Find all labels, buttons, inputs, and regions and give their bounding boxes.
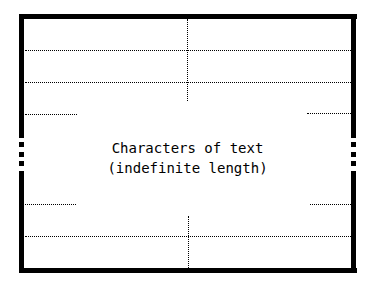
frame-top-edge <box>19 14 357 19</box>
guide-top-line-1 <box>25 50 351 51</box>
left-break-mark <box>19 152 24 157</box>
left-break-mark <box>19 161 24 166</box>
frame-right-edge-upper <box>351 14 356 138</box>
frame-bottom-edge <box>19 268 357 273</box>
frame-left-edge-lower <box>19 171 24 273</box>
guide-top-left-short <box>25 114 77 115</box>
body-text-line-1: Characters of text <box>80 138 295 158</box>
guide-bottom-center <box>188 216 189 268</box>
guide-top-right-short <box>307 113 351 114</box>
guide-bottom-left-short <box>25 204 76 205</box>
left-break-mark <box>19 142 24 147</box>
guide-bottom-right-short <box>310 204 351 205</box>
guide-top-center <box>187 19 188 101</box>
right-break-mark <box>351 161 356 166</box>
frame-right-edge-lower <box>351 171 356 273</box>
guide-top-line-2 <box>25 82 351 83</box>
body-text: Characters of text (indefinite length) <box>80 138 295 178</box>
frame-left-edge-upper <box>19 14 24 138</box>
right-break-mark <box>351 142 356 147</box>
body-text-line-2: (indefinite length) <box>80 158 295 178</box>
right-break-mark <box>351 152 356 157</box>
